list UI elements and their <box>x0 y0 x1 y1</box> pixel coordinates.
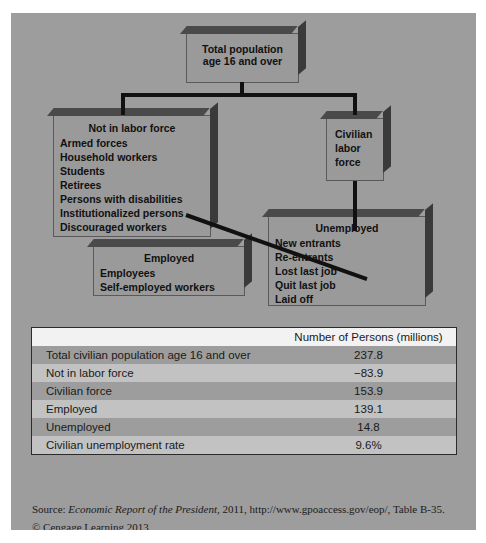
row-value: 9.6% <box>281 436 456 454</box>
box-side-face <box>210 102 218 229</box>
row-value: 237.8 <box>281 346 456 364</box>
source-title: Economic Report of the President <box>68 503 217 515</box>
connector-right-drop <box>353 93 357 115</box>
row-label: Not in labor force <box>32 364 281 382</box>
unemployed-title: Unemployed <box>275 222 419 234</box>
row-value: 153.9 <box>281 382 456 400</box>
figure-panel: Total population age 16 and over Not in … <box>11 13 476 530</box>
table-header-blank <box>32 328 281 346</box>
unemployed-item: New entrants <box>275 236 419 250</box>
box-unemployed: Unemployed New entrants Re-entrants Lost… <box>268 216 426 306</box>
table-row: Unemployed 14.8 <box>32 418 456 436</box>
box-top-face <box>87 239 244 247</box>
employed-item: Employees <box>100 266 238 280</box>
total-population-subtitle: age 16 and over <box>194 55 291 67</box>
labor-force-table: Number of Persons (millions) Total civil… <box>31 327 457 455</box>
table-row: Civilian force 153.9 <box>32 382 456 400</box>
total-population-title: Total population <box>194 43 291 55</box>
table-header-number-of-persons: Number of Persons (millions) <box>281 328 456 346</box>
table-header-row: Number of Persons (millions) <box>32 328 456 346</box>
nilf-item: Armed forces <box>60 136 204 150</box>
box-civilian-labor-force: Civilian labor force <box>326 118 384 181</box>
unemployed-item: Quit last job <box>275 278 419 292</box>
table-row: Employed 139.1 <box>32 400 456 418</box>
nilf-item: Discouraged workers <box>60 220 204 234</box>
row-value: 139.1 <box>281 400 456 418</box>
source-prefix: Source: <box>32 503 68 515</box>
clf-line1: Civilian <box>335 127 383 141</box>
unemployed-item: Laid off <box>275 292 419 306</box>
nilf-item: Persons with disabilities <box>60 192 204 206</box>
clf-line3: force <box>335 155 383 169</box>
box-top-face <box>320 111 383 119</box>
employed-item: Self-employed workers <box>100 280 238 294</box>
box-side-face <box>425 203 433 298</box>
nilf-item: Institutionalized persons <box>60 206 204 220</box>
box-employed: Employed Employees Self-employed workers <box>93 246 245 296</box>
source-rest: , 2011, http://www.gpoaccess.gov/eop/, T… <box>217 503 445 515</box>
nilf-title: Not in labor force <box>60 122 204 134</box>
employed-title: Employed <box>100 252 238 264</box>
source-note: Source: Economic Report of the President… <box>32 503 472 515</box>
box-not-in-labor-force: Not in labor force Armed forces Househol… <box>53 115 211 237</box>
nilf-item: Household workers <box>60 150 204 164</box>
clf-line2: labor <box>335 141 383 155</box>
table-row: Total civilian population age 16 and ove… <box>32 346 456 364</box>
row-label: Total civilian population age 16 and ove… <box>32 346 281 364</box>
connector-horizontal <box>121 93 357 97</box>
box-top-face <box>180 26 298 34</box>
row-label: Civilian unemployment rate <box>32 436 281 454</box>
row-value: 14.8 <box>281 418 456 436</box>
box-side-face <box>383 105 391 173</box>
table-row: Civilian unemployment rate 9.6% <box>32 436 456 454</box>
unemployed-item: Lost last job <box>275 264 419 278</box>
nilf-item: Students <box>60 164 204 178</box>
row-label: Employed <box>32 400 281 418</box>
box-total-population: Total population age 16 and over <box>186 33 299 83</box>
copyright-note: © Cengage Learning 2013 <box>32 521 149 530</box>
table-row: Not in labor force −83.9 <box>32 364 456 382</box>
row-value: −83.9 <box>281 364 456 382</box>
box-side-face <box>244 233 252 288</box>
row-label: Civilian force <box>32 382 281 400</box>
nilf-item: Retirees <box>60 178 204 192</box>
box-top-face <box>47 108 210 116</box>
unemployed-item: Re-entrants <box>275 250 419 264</box>
box-side-face <box>298 20 306 75</box>
box-top-face <box>262 209 425 217</box>
row-label: Unemployed <box>32 418 281 436</box>
connector-left-drop <box>121 93 125 115</box>
